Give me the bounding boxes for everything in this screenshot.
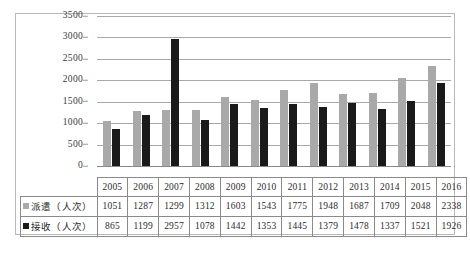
table-header-year: 2005 (97, 178, 128, 197)
bar-receive (407, 101, 415, 166)
table-header-year: 2006 (128, 178, 159, 197)
legend-label: 接收（人次） (31, 222, 92, 232)
table-cell-value: 1379 (313, 216, 344, 236)
table-header-year: 2012 (313, 178, 344, 197)
table-cell-value: 1687 (344, 197, 375, 217)
y-axis-tick-label: 0 (35, 161, 83, 171)
y-axis-tick-label: 500 (35, 140, 83, 150)
bar-receive (319, 107, 327, 166)
table-cell-value: 1543 (251, 197, 282, 217)
bar-dispatch (280, 90, 288, 166)
table-cell-value: 1445 (282, 216, 313, 236)
gridline (97, 37, 451, 38)
table-header-year: 2014 (374, 178, 405, 197)
bar-dispatch (251, 100, 259, 166)
table-cell-value: 865 (97, 216, 128, 236)
table-header-year: 2007 (159, 178, 190, 197)
bar-receive (171, 39, 179, 166)
bar-receive (142, 115, 150, 166)
table-cell-value: 1353 (251, 216, 282, 236)
y-axis-tick-label: 1000 (35, 118, 83, 128)
table-corner-cell (21, 178, 98, 197)
y-axis-tick-mark (83, 166, 88, 167)
table-cell-value: 1051 (97, 197, 128, 217)
square-gray-icon (23, 203, 29, 209)
table-cell-value: 2048 (405, 197, 436, 217)
y-axis-tick-label: 2000 (35, 76, 83, 86)
table-cell-value: 1287 (128, 197, 159, 217)
gridline (97, 16, 451, 17)
y-axis-tick-mark (83, 58, 88, 59)
y-axis-tick-label: 2500 (35, 54, 83, 64)
square-black-icon (23, 223, 29, 229)
bar-receive (437, 83, 445, 166)
table-header-year: 2008 (189, 178, 220, 197)
y-axis-tick-mark (83, 16, 88, 17)
bar-receive (230, 104, 238, 166)
table-header-year: 2015 (405, 178, 436, 197)
axis-baseline (97, 166, 451, 167)
bar-receive (260, 108, 268, 166)
table-cell-value: 1478 (344, 216, 375, 236)
table-header-year: 2010 (251, 178, 282, 197)
chart-frame: 0500100015002000250030003500 20052006200… (15, 13, 455, 235)
table-cell-value: 1926 (436, 216, 467, 236)
bar-dispatch (339, 94, 347, 166)
y-axis-tick-label: 3000 (35, 33, 83, 43)
table-row: 接收（人次）8651199295710781442135314451379147… (21, 216, 467, 236)
bar-dispatch (221, 97, 229, 166)
table-cell-value: 2957 (159, 216, 190, 236)
legend-cell: 接收（人次） (21, 216, 98, 236)
table-cell-value: 2338 (436, 197, 467, 217)
table-cell-value: 1078 (189, 216, 220, 236)
bar-receive (378, 109, 386, 166)
table-cell-value: 1948 (313, 197, 344, 217)
bar-receive (348, 103, 356, 166)
table-cell-value: 1603 (220, 197, 251, 217)
table-cell-value: 1521 (405, 216, 436, 236)
table-cell-value: 1709 (374, 197, 405, 217)
table-cell-value: 1337 (374, 216, 405, 236)
y-axis-tick-label: 1500 (35, 97, 83, 107)
table-cell-value: 1442 (220, 216, 251, 236)
table-cell-value: 1299 (159, 197, 190, 217)
table-header-year: 2013 (344, 178, 375, 197)
gridline (97, 59, 451, 60)
table-cell-value: 1312 (189, 197, 220, 217)
y-axis-tick-mark (83, 80, 88, 81)
chart-plot-area: 0500100015002000250030003500 (16, 14, 456, 177)
table-header-year: 2016 (436, 178, 467, 197)
table-header-year: 2009 (220, 178, 251, 197)
bar-dispatch (398, 78, 406, 166)
table-cell-value: 1775 (282, 197, 313, 217)
y-axis-tick-mark (83, 123, 88, 124)
bar-dispatch (103, 121, 111, 166)
bar-dispatch (369, 93, 377, 166)
bar-dispatch (192, 110, 200, 166)
bar-dispatch (310, 83, 318, 166)
table-row: 派遣（人次）1051128712991312160315431775194816… (21, 197, 467, 217)
bar-receive (289, 104, 297, 166)
y-axis-tick-label: 3500 (35, 11, 83, 21)
y-axis-tick-mark (83, 144, 88, 145)
legend-label: 派遣（人次） (31, 202, 92, 212)
y-axis-tick-mark (83, 101, 88, 102)
legend-cell: 派遣（人次） (21, 197, 98, 217)
y-axis-tick-mark (83, 37, 88, 38)
table-row-years: 2005200620072008200920102011201220132014… (21, 178, 467, 197)
data-table-body: 2005200620072008200920102011201220132014… (21, 178, 467, 237)
bar-dispatch (162, 110, 170, 166)
bar-dispatch (133, 111, 141, 166)
bar-receive (112, 129, 120, 166)
data-table: 2005200620072008200920102011201220132014… (20, 177, 467, 237)
bar-receive (201, 120, 209, 166)
table-header-year: 2011 (282, 178, 313, 197)
bar-dispatch (428, 66, 436, 166)
table-cell-value: 1199 (128, 216, 159, 236)
